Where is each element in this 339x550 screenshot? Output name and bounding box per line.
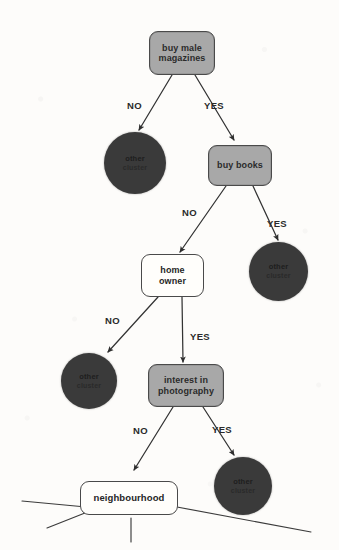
node-label-neighbourhood: neighbourhood: [94, 493, 165, 504]
node-buy-male-magazines[interactable]: buy male magazines: [149, 31, 215, 75]
leaf-label-line1: other: [233, 478, 253, 486]
edge-home-owner-yes: [182, 297, 183, 362]
edge-buy-books-yes: [253, 186, 278, 240]
leaf-label-line2: cluster: [77, 382, 101, 390]
node-label-line1: home: [160, 265, 184, 275]
edge-label-home-owner-yes: YES: [190, 331, 210, 342]
node-home-owner[interactable]: home owner: [141, 254, 204, 297]
edge-label-interest-in-photography-yes: YES: [212, 424, 232, 435]
node-label-line2: owner: [159, 276, 186, 286]
edge-label-buy-books-no: NO: [182, 207, 197, 218]
edge-label-interest-in-photography-no: NO: [133, 425, 148, 436]
edge-buy-books-no: [180, 186, 226, 252]
node-neighbourhood[interactable]: neighbourhood: [80, 481, 178, 515]
leaf-label-line2: cluster: [231, 487, 255, 495]
node-label-line2: photography: [158, 386, 214, 396]
leaf-label-line1: other: [269, 263, 289, 271]
node-other-cluster-4[interactable]: other cluster: [214, 457, 272, 515]
node-label-home-owner: home owner: [159, 265, 186, 285]
node-label-buy-male-magazines: buy male magazines: [159, 43, 206, 63]
edge-label-buy-male-magazines-yes: YES: [204, 100, 224, 111]
node-label-buy-books: buy books: [217, 160, 263, 170]
node-interest-in-photography[interactable]: interest in photography: [148, 364, 224, 407]
leaf-label-line2: cluster: [123, 164, 147, 172]
node-label-line1: interest in: [164, 375, 208, 385]
node-label-line2: magazines: [159, 53, 206, 63]
edge-interest-in-photography-no: [134, 407, 173, 470]
node-label-line1: buy male: [162, 43, 202, 53]
node-label-interest-in-photography: interest in photography: [158, 375, 214, 395]
edge-label-buy-male-magazines-no: NO: [127, 100, 142, 111]
node-other-cluster-2[interactable]: other cluster: [249, 242, 308, 301]
node-other-cluster-3[interactable]: other cluster: [61, 353, 117, 409]
neighbourhood-branch-1: [22, 501, 86, 507]
edge-label-home-owner-no: NO: [105, 315, 120, 326]
node-other-cluster-1[interactable]: other cluster: [104, 132, 166, 194]
edge-buy-male-magazines-no: [139, 75, 172, 130]
leaf-label-line2: cluster: [266, 272, 290, 280]
node-buy-books[interactable]: buy books: [208, 145, 272, 186]
decision-tree-diagram: buy male magazines other cluster buy boo…: [0, 0, 339, 550]
edge-label-buy-books-yes: YES: [267, 218, 287, 229]
leaf-label-line1: other: [79, 373, 99, 381]
leaf-label-line1: other: [125, 155, 145, 163]
